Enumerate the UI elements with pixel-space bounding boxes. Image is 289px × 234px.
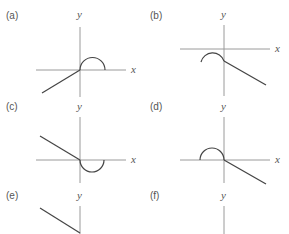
panel-d-x-label: x [275,153,280,165]
panel-d-graph [180,117,270,184]
panel-f-y-label: y [221,189,226,201]
panel-b-arc [201,53,224,62]
panel-c-ray [40,136,80,160]
panel-b-x-label: x [275,42,280,54]
panel-d-y-label: y [221,100,226,112]
panel-e-ray [40,208,80,233]
panel-a-graph [36,27,126,97]
panel-b-ray [224,61,266,85]
panel-b-graph [180,25,270,96]
panel-c-x-label: x [131,153,136,165]
panel-a-ray [42,70,80,93]
panel-b-label: (b) [150,10,162,21]
panel-a-label: (a) [6,10,18,21]
graphs-figure [0,0,289,234]
panel-a-semicircle [80,58,105,71]
panel-d-semicircle [200,148,224,160]
panel-e-y-label: y [77,189,82,201]
panel-d-ray [224,160,266,184]
panel-c-label: (c) [6,101,18,112]
panel-e-graph [40,206,80,234]
panel-e-label: (e) [6,190,18,201]
panel-c-semicircle [80,160,104,172]
panel-c-y-label: y [77,100,82,112]
panel-c-graph [36,117,126,183]
panel-a-y-label: y [77,8,82,20]
panel-d-label: (d) [150,101,162,112]
panel-f-label: (f) [150,190,159,201]
panel-b-y-label: y [221,8,226,20]
panel-a-x-label: x [131,63,136,75]
